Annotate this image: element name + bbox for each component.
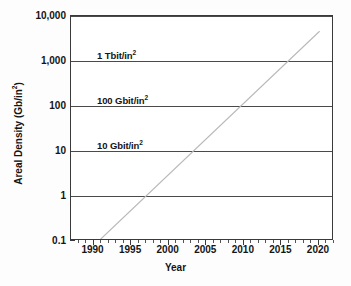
x-tick-minor [273, 240, 274, 243]
y-axis-title: Areal Density (Gb/in2) [13, 34, 24, 234]
y-tick-label-100: 100 [49, 100, 66, 111]
x-tick-label-2000: 2000 [157, 244, 179, 255]
x-tick-minor [228, 240, 229, 243]
x-tick-label-2015: 2015 [269, 244, 291, 255]
x-tick-minor [85, 240, 86, 243]
y-axis-title-closing-paren: ) [13, 82, 24, 85]
plot-area: 10 Tbit/in2 1 Tbit/in2 100 Gbit/in2 10 G… [70, 15, 333, 240]
x-tick-minor [295, 240, 296, 243]
annotation-10-gbit: 10 Gbit/in2 [97, 140, 143, 151]
annotation-10-tbit: 10 Tbit/in2 [97, 15, 141, 16]
x-tick-minor [235, 240, 236, 243]
y-axis-title-text: Areal Density (Gb/in [13, 89, 24, 185]
x-tick-minor [333, 240, 334, 243]
x-tick-minor [153, 240, 154, 243]
annotation-10-gbit-superscript: 2 [139, 139, 143, 146]
annotation-100-gbit-text: 100 Gbit/in [97, 95, 144, 106]
x-tick-minor [303, 240, 304, 243]
x-tick-minor [220, 240, 221, 243]
x-tick-label-2010: 2010 [232, 244, 254, 255]
x-tick-minor [198, 240, 199, 243]
x-tick-minor [310, 240, 311, 243]
x-tick-minor [108, 240, 109, 243]
annotation-1-tbit-text: 1 Tbit/in [97, 50, 133, 61]
x-tick-minor [250, 240, 251, 243]
y-tick-label-10: 10 [55, 145, 66, 156]
x-tick-minor [183, 240, 184, 243]
x-tick-minor [190, 240, 191, 243]
y-tick-major [70, 240, 75, 241]
x-tick-minor [78, 240, 79, 243]
x-tick-minor [213, 240, 214, 243]
y-tick-label-1: 1 [60, 190, 66, 201]
y-tick-label-0.1: 0.1 [52, 235, 66, 246]
x-tick-label-1990: 1990 [81, 244, 103, 255]
x-axis-title: Year [0, 262, 351, 273]
x-tick-minor [325, 240, 326, 243]
x-tick-label-2005: 2005 [194, 244, 216, 255]
annotation-10-gbit-text: 10 Gbit/in [97, 140, 139, 151]
x-tick-minor [288, 240, 289, 243]
y-axis-title-superscript: 2 [11, 86, 18, 90]
y-tick-label-1000: 1,000 [41, 55, 66, 66]
x-tick-minor [265, 240, 266, 243]
x-tick-minor [100, 240, 101, 243]
x-tick-minor [160, 240, 161, 243]
areal-density-trend-line [101, 31, 319, 239]
y-tick-label-10000: 10,000 [35, 10, 66, 21]
chart-figure: Areal Density (Gb/in2) 10,000 1,000 100 … [0, 0, 351, 286]
x-tick-minor [175, 240, 176, 243]
x-tick-minor [138, 240, 139, 243]
annotation-1-tbit-superscript: 2 [133, 49, 137, 56]
x-tick-minor [115, 240, 116, 243]
x-tick-minor [145, 240, 146, 243]
x-tick-minor [258, 240, 259, 243]
x-tick-minor [123, 240, 124, 243]
annotation-100-gbit-superscript: 2 [144, 94, 148, 101]
x-tick-label-1995: 1995 [119, 244, 141, 255]
annotation-1-tbit: 1 Tbit/in2 [97, 50, 136, 61]
annotation-100-gbit: 100 Gbit/in2 [97, 95, 148, 106]
annotation-10-tbit-text: 10 Tbit/in [97, 15, 138, 16]
x-tick-label-2020: 2020 [307, 244, 329, 255]
